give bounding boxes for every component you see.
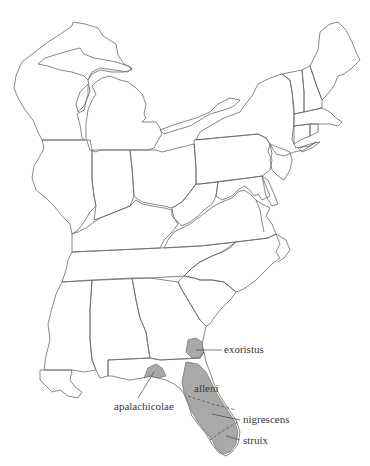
maryland-outline — [216, 176, 270, 200]
alabama-outline — [90, 278, 150, 378]
wisconsin-outline — [14, 22, 132, 140]
label-alleni: alleni — [194, 383, 218, 394]
ohio-outline — [130, 144, 196, 208]
indiana-outline — [92, 150, 134, 220]
louisiana-outline — [40, 370, 82, 398]
mississippi-outline — [44, 280, 96, 372]
massachusetts-outline — [294, 108, 342, 126]
lake-erie-ontario — [160, 98, 240, 134]
label-struix: struix — [243, 435, 268, 446]
lake-michigan-shore — [76, 84, 88, 112]
new-york-outline — [196, 74, 316, 156]
illinois-outline — [32, 140, 96, 234]
range-exoristus — [186, 338, 203, 358]
state-outlines — [0, 0, 370, 466]
rhode-island-outline — [310, 124, 318, 136]
west-virginia-outline — [172, 182, 218, 226]
maine-outline — [310, 22, 360, 100]
label-apalachicolae: apalachicolae — [114, 401, 174, 412]
range-apalachicolae — [144, 364, 166, 378]
tennessee-outline — [62, 242, 236, 282]
south-carolina-outline — [178, 276, 236, 326]
delaware-outline — [262, 176, 278, 206]
kentucky-outline — [72, 200, 178, 252]
range-map: exoristus alleni apalachicolae nigrescen… — [0, 0, 370, 466]
michigan-outline — [86, 76, 162, 152]
connecticut-outline — [294, 124, 310, 144]
label-exoristus: exoristus — [224, 344, 264, 355]
label-nigrescens: nigrescens — [243, 414, 289, 425]
vermont-outline — [282, 70, 304, 114]
